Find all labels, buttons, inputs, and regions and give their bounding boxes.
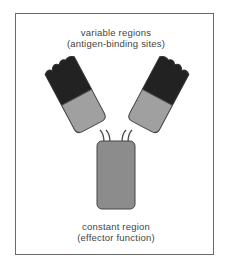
hinge-right-inner xyxy=(122,130,126,142)
left-arm xyxy=(43,54,107,134)
constant-region-subtitle: (effector function) xyxy=(0,232,232,243)
constant-region-stem xyxy=(97,141,135,209)
hinge-left xyxy=(100,130,104,142)
hinge-left-inner xyxy=(106,130,110,142)
constant-region-label: constant region (effector function) xyxy=(0,221,232,243)
right-arm xyxy=(127,54,191,134)
constant-region-title: constant region xyxy=(0,221,232,232)
hinge-right xyxy=(128,130,132,142)
